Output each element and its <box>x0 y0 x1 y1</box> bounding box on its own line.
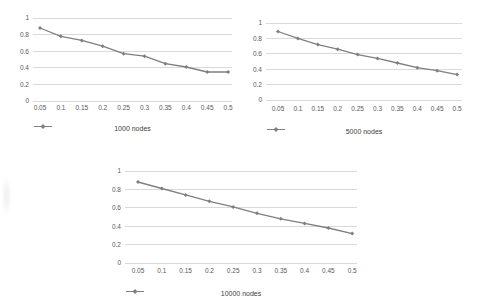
data-point-marker <box>279 217 283 221</box>
y-axis-tick-label: 0 <box>258 96 262 103</box>
data-point-marker <box>122 52 126 56</box>
x-axis-tick-label: 0.45 <box>201 104 214 111</box>
y-axis-tick-label: 0.6 <box>253 50 262 57</box>
data-point-marker <box>255 211 259 215</box>
data-point-marker <box>184 193 188 197</box>
data-point-marker <box>303 221 307 225</box>
x-axis-tick-label: 0.5 <box>348 267 357 274</box>
legend-label: 5000 nodes <box>346 128 383 135</box>
y-axis-tick-label: 0.2 <box>20 81 29 88</box>
y-axis-tick-label: 0.8 <box>253 35 262 42</box>
data-point-marker <box>38 26 42 30</box>
chart-1000-nodes-plot: 10.80.60.40.200.050.10.150.20.250.30.350… <box>8 10 240 120</box>
y-axis-tick-label: 0.8 <box>112 186 121 193</box>
legend-label: 10000 nodes <box>221 290 261 297</box>
line-marker-icon <box>266 126 286 133</box>
data-point-marker <box>226 70 230 74</box>
data-point-marker <box>455 73 459 77</box>
y-axis-tick-label: 0.4 <box>112 223 121 230</box>
charts-page: 10.80.60.40.200.050.10.150.20.250.30.350… <box>0 0 480 305</box>
x-axis-tick-label: 0.35 <box>159 104 172 111</box>
x-axis-tick-label: 0.25 <box>117 104 130 111</box>
y-axis-tick-label: 0 <box>117 259 121 266</box>
x-axis-tick-label: 0.15 <box>75 104 88 111</box>
y-axis-tick-label: 0.2 <box>112 241 121 248</box>
x-axis-tick-label: 0.35 <box>274 267 287 274</box>
line-marker-icon <box>33 123 53 130</box>
y-axis-tick-label: 0.4 <box>253 66 262 73</box>
y-axis-tick-label: 1 <box>117 167 121 174</box>
y-axis-tick-label: 1 <box>258 19 262 26</box>
x-axis-tick-label: 0.2 <box>98 104 107 111</box>
data-point-marker <box>316 43 320 47</box>
x-axis-tick-label: 0.2 <box>205 267 214 274</box>
x-axis-tick-label: 0.45 <box>322 267 335 274</box>
x-axis-tick-label: 0.05 <box>34 104 47 111</box>
data-point-marker <box>163 62 167 66</box>
y-axis-tick-label: 0.6 <box>20 48 29 55</box>
legend-label: 1000 nodes <box>114 125 151 132</box>
x-axis-tick-label: 0.35 <box>391 105 404 112</box>
y-axis-tick-label: 0 <box>25 97 29 104</box>
x-axis-tick-label: 0.25 <box>351 105 364 112</box>
x-axis-tick-label: 0.3 <box>373 105 382 112</box>
chart-5000-nodes: 10.80.60.40.200.050.10.150.20.250.30.350… <box>248 10 470 132</box>
x-axis-tick-label: 0.5 <box>224 104 233 111</box>
data-point-marker <box>276 29 280 33</box>
y-axis-tick-label: 0.2 <box>253 81 262 88</box>
y-axis-tick-label: 0.4 <box>20 64 29 71</box>
x-axis-tick-label: 0.1 <box>56 104 65 111</box>
chart-10000-nodes: 10.80.60.40.200.050.10.150.20.250.30.350… <box>105 162 367 302</box>
x-axis-tick-label: 0.4 <box>182 104 191 111</box>
chart-5000-nodes-plot: 10.80.60.40.200.050.10.150.20.250.30.350… <box>248 10 470 120</box>
y-axis-tick-label: 0.6 <box>112 204 121 211</box>
data-point-marker <box>101 44 105 48</box>
line-marker-icon <box>125 288 145 295</box>
x-axis-tick-label: 0.45 <box>431 105 444 112</box>
x-axis-tick-label: 0.1 <box>157 267 166 274</box>
data-point-marker <box>205 70 209 74</box>
scan-artifact <box>1 175 12 217</box>
y-axis-tick-label: 1 <box>25 14 29 21</box>
data-point-marker <box>336 47 340 51</box>
legend-10000-nodes[interactable]: 10000 nodes <box>125 288 357 298</box>
x-axis-tick-label: 0.3 <box>140 104 149 111</box>
data-point-marker <box>350 232 354 236</box>
data-point-marker <box>395 61 399 65</box>
x-axis-tick-label: 0.2 <box>333 105 342 112</box>
data-point-marker <box>207 199 211 203</box>
x-axis-tick-label: 0.15 <box>311 105 324 112</box>
data-point-marker <box>136 180 140 184</box>
legend-1000-nodes[interactable]: 1000 nodes <box>33 123 232 133</box>
data-point-marker <box>143 54 147 58</box>
data-point-marker <box>184 65 188 69</box>
data-point-marker <box>80 38 84 42</box>
data-point-marker <box>356 53 360 57</box>
x-axis-tick-label: 0.25 <box>227 267 240 274</box>
x-axis-tick-label: 0.05 <box>272 105 285 112</box>
x-axis-tick-label: 0.5 <box>453 105 462 112</box>
x-axis-tick-label: 0.4 <box>413 105 422 112</box>
x-axis-tick-label: 0.3 <box>252 267 261 274</box>
y-axis-tick-label: 0.8 <box>20 31 29 38</box>
x-axis-tick-label: 0.4 <box>300 267 309 274</box>
x-axis-tick-label: 0.1 <box>293 105 302 112</box>
legend-5000-nodes[interactable]: 5000 nodes <box>266 126 462 136</box>
chart-10000-nodes-plot: 10.80.60.40.200.050.10.150.20.250.30.350… <box>105 162 367 284</box>
chart-1000-nodes: 10.80.60.40.200.050.10.150.20.250.30.350… <box>8 10 240 132</box>
x-axis-tick-label: 0.05 <box>132 267 145 274</box>
data-point-marker <box>296 36 300 40</box>
x-axis-tick-label: 0.15 <box>179 267 192 274</box>
data-point-marker <box>376 56 380 60</box>
